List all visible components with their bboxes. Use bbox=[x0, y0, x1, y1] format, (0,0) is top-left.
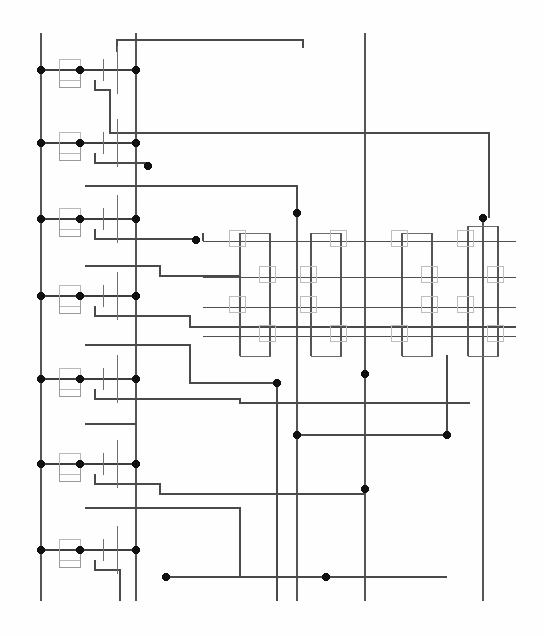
junction-node bbox=[37, 66, 45, 74]
junction-node bbox=[37, 292, 45, 300]
junction-node bbox=[37, 139, 45, 147]
junction-node bbox=[37, 460, 45, 468]
junction-node bbox=[443, 431, 451, 439]
junction-node bbox=[132, 292, 140, 300]
junction-node bbox=[273, 379, 281, 387]
junction-node bbox=[76, 546, 84, 554]
junction-node bbox=[132, 375, 140, 383]
junction-node bbox=[132, 546, 140, 554]
junction-node bbox=[132, 66, 140, 74]
junction-node bbox=[76, 460, 84, 468]
junction-node bbox=[76, 139, 84, 147]
junction-node bbox=[76, 292, 84, 300]
junction-node bbox=[132, 460, 140, 468]
junction-node bbox=[192, 236, 200, 244]
canvas-background bbox=[0, 0, 544, 636]
junction-node bbox=[293, 209, 301, 217]
schematic-canvas: Electrical Schematic Diagram Black-and-w… bbox=[0, 0, 544, 636]
junction-node bbox=[132, 139, 140, 147]
junction-node bbox=[479, 214, 487, 222]
junction-node bbox=[76, 215, 84, 223]
schematic-drawing bbox=[0, 0, 544, 636]
junction-node bbox=[361, 485, 369, 493]
junction-node bbox=[37, 215, 45, 223]
junction-node bbox=[162, 573, 170, 581]
junction-node bbox=[144, 162, 152, 170]
junction-node bbox=[76, 66, 84, 74]
junction-node bbox=[293, 431, 301, 439]
junction-node bbox=[361, 370, 369, 378]
junction-node bbox=[37, 546, 45, 554]
junction-node bbox=[37, 375, 45, 383]
junction-node bbox=[322, 573, 330, 581]
junction-node bbox=[76, 375, 84, 383]
junction-node bbox=[132, 215, 140, 223]
